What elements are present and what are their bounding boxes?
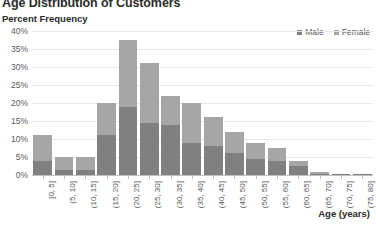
bar-stack [246,143,265,175]
x-tick-mark [85,176,86,179]
chart-title: Age Distribution of Customers [2,0,180,10]
bar-segment-male[interactable] [289,166,308,175]
bar-segment-female[interactable] [97,103,116,135]
bar-stack [204,117,223,175]
bar-segment-male[interactable] [119,107,138,175]
bar-segment-female[interactable] [55,157,74,170]
bar-segment-male[interactable] [246,159,265,175]
bar-segment-male[interactable] [204,146,223,175]
x-axis-title: Age (years) [318,208,370,219]
x-tick-mark [149,176,150,179]
bar-group[interactable] [288,31,309,175]
x-tick-mark [298,176,299,179]
y-tick-label: 35% [0,44,28,54]
x-tick-mark [234,176,235,179]
bar-stack [289,161,308,175]
bar-segment-male[interactable] [182,143,201,175]
bar-segment-female[interactable] [76,157,95,170]
bar-stack [161,96,180,175]
x-tick-slot: (40, 45] [203,178,224,220]
bar-stack [76,157,95,175]
bar-group[interactable] [32,31,53,175]
x-tick-slot: (15, 20] [96,178,117,220]
y-tick-label: 20% [0,98,28,108]
bar-group[interactable] [203,31,224,175]
x-tick-slot: (10, 15] [75,178,96,220]
bar-stack [33,135,52,175]
y-axis-title: Percent Frequency [2,13,88,24]
x-tick-mark [107,176,108,179]
bar-segment-male[interactable] [161,125,180,175]
plot-area [32,31,373,176]
bar-stack [225,132,244,175]
x-tick-mark [192,176,193,179]
bar-group[interactable] [117,31,138,175]
x-tick-slot: (55, 60] [266,178,287,220]
bar-segment-male[interactable] [97,135,116,175]
x-tick-label: (75, 80] [366,181,375,208]
x-tick-slot: (60, 65] [288,178,309,220]
chart-container: Age Distribution of Customers Percent Fr… [0,0,376,225]
bar-segment-female[interactable] [204,117,223,146]
bar-group[interactable] [224,31,245,175]
bar-segment-male[interactable] [33,161,52,175]
bar-group[interactable] [160,31,181,175]
x-tick-mark [64,176,65,179]
y-tick-label: 15% [0,116,28,126]
y-tick-label: 30% [0,62,28,72]
bar-segment-female[interactable] [33,135,52,160]
y-tick-label: 5% [0,152,28,162]
bar-stack [119,40,138,175]
x-tick-mark [171,176,172,179]
bar-group[interactable] [96,31,117,175]
x-tick-mark [277,176,278,179]
y-tick-label: 40% [0,26,28,36]
y-tick-label: 25% [0,80,28,90]
bar-series-group [32,31,373,175]
bar-segment-male[interactable] [140,123,159,175]
x-tick-mark [256,176,257,179]
bar-segment-female[interactable] [268,148,287,161]
bar-group[interactable] [53,31,74,175]
x-tick-mark [362,176,363,179]
bar-group[interactable] [330,31,351,175]
x-tick-slot: (50, 55] [245,178,266,220]
bar-group[interactable] [139,31,160,175]
x-axis-line [32,175,373,176]
x-tick-mark [213,176,214,179]
bar-stack [268,148,287,175]
bar-group[interactable] [245,31,266,175]
bar-group[interactable] [181,31,202,175]
x-tick-slot: (5, 10] [53,178,74,220]
x-tick-mark [128,176,129,179]
bar-stack [55,157,74,175]
bar-segment-female[interactable] [182,103,201,143]
bar-stack [140,63,159,175]
x-tick-slot: [0, 5] [32,178,53,220]
x-tick-slot: (25, 30] [139,178,160,220]
bar-segment-male[interactable] [268,161,287,175]
x-tick-slot: (45, 50] [224,178,245,220]
bar-stack [97,103,116,175]
bar-segment-male[interactable] [225,153,244,175]
bar-group[interactable] [266,31,287,175]
x-tick-mark [320,176,321,179]
y-tick-label: 0% [0,170,28,180]
y-axis-ticks: 0%5%10%15%20%25%30%35%40% [0,31,28,176]
bar-stack [182,103,201,175]
x-tick-slot: (20, 25] [117,178,138,220]
y-tick-label: 10% [0,134,28,144]
bar-group[interactable] [352,31,373,175]
bar-segment-female[interactable] [140,63,159,122]
bar-segment-female[interactable] [225,132,244,154]
x-tick-mark [341,176,342,179]
bar-segment-female[interactable] [161,96,180,125]
x-tick-mark [43,176,44,179]
x-tick-slot: (35, 40] [181,178,202,220]
bar-group[interactable] [309,31,330,175]
bar-segment-female[interactable] [246,143,265,159]
bar-segment-female[interactable] [119,40,138,107]
bar-group[interactable] [75,31,96,175]
x-tick-slot: (30, 35] [160,178,181,220]
